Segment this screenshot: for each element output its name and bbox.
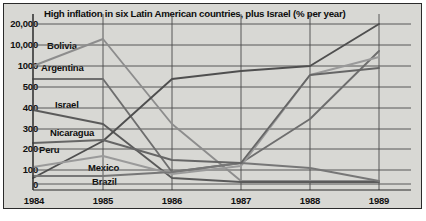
axis-lines xyxy=(33,14,411,190)
chart-figure: High inflation in six Latin American cou… xyxy=(0,0,426,221)
plot-area xyxy=(0,0,426,221)
series-line-mexico xyxy=(33,163,379,181)
gridlines-horizontal xyxy=(33,24,411,184)
series-line-argentina xyxy=(33,51,379,172)
